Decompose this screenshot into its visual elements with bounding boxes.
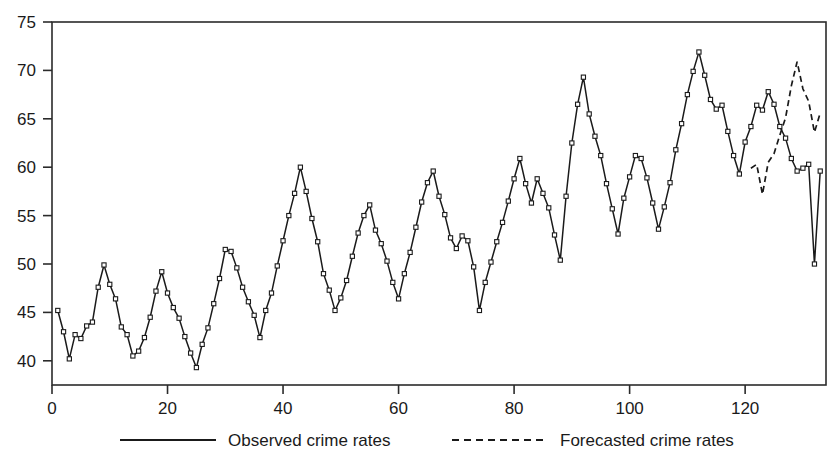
data-point-marker <box>564 194 568 198</box>
data-point-marker <box>385 259 389 263</box>
y-tick-label: 50 <box>17 255 36 274</box>
data-point-marker <box>414 225 418 229</box>
data-point-marker <box>194 365 198 369</box>
data-point-marker <box>795 169 799 173</box>
x-tick-label: 80 <box>505 399 524 418</box>
data-point-marker <box>662 205 666 209</box>
data-point-marker <box>61 330 65 334</box>
x-axis: 020406080100120 <box>47 385 759 418</box>
data-point-marker <box>783 136 787 140</box>
data-point-marker <box>552 233 556 237</box>
y-tick-label: 75 <box>17 13 36 32</box>
x-tick-label: 20 <box>158 399 177 418</box>
data-point-marker <box>408 250 412 254</box>
data-point-marker <box>223 247 227 251</box>
data-point-marker <box>269 291 273 295</box>
data-point-marker <box>235 266 239 270</box>
data-point-marker <box>633 153 637 157</box>
chart-legend: Observed crime rates Forecasted crime ra… <box>120 431 734 450</box>
data-point-marker <box>206 326 210 330</box>
data-point-marker <box>604 182 608 186</box>
data-point-marker <box>616 232 620 236</box>
data-point-marker <box>772 102 776 106</box>
data-point-marker <box>287 214 291 218</box>
data-point-marker <box>448 236 452 240</box>
data-point-marker <box>113 297 117 301</box>
data-point-marker <box>189 351 193 355</box>
data-point-marker <box>685 93 689 97</box>
data-point-marker <box>131 354 135 358</box>
data-point-marker <box>818 169 822 173</box>
data-point-marker <box>79 336 83 340</box>
data-point-marker <box>801 166 805 170</box>
data-point-marker <box>726 129 730 133</box>
data-point-marker <box>85 324 89 328</box>
data-point-marker <box>431 169 435 173</box>
data-point-marker <box>529 201 533 205</box>
data-point-marker <box>316 240 320 244</box>
data-point-marker <box>645 176 649 180</box>
data-point-marker <box>472 265 476 269</box>
crime-rates-time-series-chart: 4045505560657075 020406080100120 Observe… <box>0 0 840 467</box>
data-point-marker <box>622 196 626 200</box>
data-point-marker <box>760 108 764 112</box>
data-point-marker <box>258 335 262 339</box>
data-point-marker <box>599 153 603 157</box>
data-point-marker <box>241 285 245 289</box>
data-point-marker <box>570 141 574 145</box>
data-point-marker <box>500 220 504 224</box>
data-point-marker <box>171 305 175 309</box>
data-point-marker <box>298 165 302 169</box>
data-point-marker <box>708 97 712 101</box>
data-point-marker <box>177 316 181 320</box>
data-point-marker <box>714 107 718 111</box>
data-point-marker <box>373 228 377 232</box>
data-point-marker <box>628 175 632 179</box>
data-point-marker <box>310 216 314 220</box>
data-point-marker <box>420 200 424 204</box>
data-point-marker <box>56 308 60 312</box>
data-point-marker <box>148 315 152 319</box>
data-point-marker <box>293 191 297 195</box>
data-point-marker <box>344 278 348 282</box>
data-point-marker <box>460 234 464 238</box>
data-point-marker <box>581 75 585 79</box>
data-point-marker <box>102 263 106 267</box>
data-point-marker <box>518 156 522 160</box>
data-point-marker <box>217 276 221 280</box>
data-point-marker <box>477 308 481 312</box>
data-point-marker <box>425 181 429 185</box>
data-point-marker <box>443 213 447 217</box>
plot-area-border <box>52 22 826 385</box>
data-point-marker <box>483 280 487 284</box>
data-point-marker <box>547 206 551 210</box>
data-point-marker <box>125 333 129 337</box>
data-point-marker <box>651 201 655 205</box>
data-point-marker <box>489 260 493 264</box>
data-point-marker <box>142 335 146 339</box>
data-point-marker <box>160 270 164 274</box>
data-point-marker <box>327 288 331 292</box>
data-point-marker <box>119 325 123 329</box>
data-point-marker <box>379 242 383 246</box>
data-point-marker <box>697 50 701 54</box>
y-tick-label: 70 <box>17 61 36 80</box>
data-point-marker <box>96 285 100 289</box>
legend-label-forecast: Forecasted crime rates <box>560 431 734 450</box>
data-point-marker <box>749 124 753 128</box>
data-point-marker <box>67 357 71 361</box>
y-tick-label: 65 <box>17 110 36 129</box>
data-point-marker <box>731 153 735 157</box>
data-point-marker <box>252 313 256 317</box>
x-tick-label: 100 <box>615 399 643 418</box>
data-point-marker <box>183 335 187 339</box>
data-point-marker <box>680 122 684 126</box>
data-point-marker <box>807 162 811 166</box>
data-point-marker <box>396 297 400 301</box>
data-point-marker <box>229 249 233 253</box>
data-point-marker <box>368 203 372 207</box>
data-point-marker <box>90 320 94 324</box>
data-point-marker <box>610 207 614 211</box>
data-point-marker <box>402 272 406 276</box>
data-point-marker <box>281 239 285 243</box>
